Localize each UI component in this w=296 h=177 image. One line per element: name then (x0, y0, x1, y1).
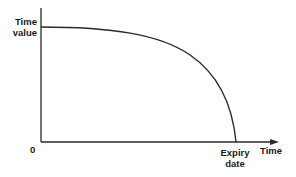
expiry-label-line1: Expiry (213, 147, 257, 158)
expiry-label-line2: date (213, 158, 257, 169)
y-axis-label-line2: value (5, 27, 37, 38)
y-axis-label: Time value (5, 16, 37, 38)
expiry-date-label: Expiry date (213, 147, 257, 169)
time-value-curve (41, 27, 236, 142)
y-axis-label-line1: Time (5, 16, 37, 27)
x-axis-label: Time (260, 145, 282, 156)
origin-label: 0 (30, 144, 35, 155)
